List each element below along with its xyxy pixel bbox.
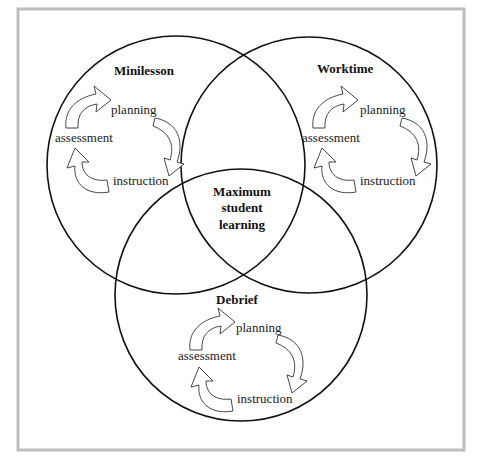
center-label-line-1: Maximum bbox=[213, 184, 271, 199]
center-intersection: Maximum student learning bbox=[213, 184, 271, 232]
cycle-label-planning: planning bbox=[111, 102, 157, 117]
venn-diagram: Minilesson planning assessment instructi… bbox=[0, 0, 478, 465]
cycle-label-assessment: assessment bbox=[55, 130, 113, 145]
cycle-label-instruction: instruction bbox=[360, 173, 416, 188]
set-title-minilesson: Minilesson bbox=[114, 63, 175, 78]
center-label-line-2: student bbox=[221, 200, 263, 215]
cycle-label-instruction: instruction bbox=[237, 391, 293, 406]
cycle-label-assessment: assessment bbox=[302, 130, 360, 145]
set-title-worktime: Worktime bbox=[317, 61, 374, 76]
cycle-label-assessment: assessment bbox=[178, 348, 236, 363]
cycle-label-planning: planning bbox=[360, 102, 406, 117]
set-title-debrief: Debrief bbox=[216, 292, 259, 307]
cycle-label-planning: planning bbox=[236, 320, 282, 335]
center-label-line-3: learning bbox=[219, 217, 266, 232]
cycle-label-instruction: instruction bbox=[113, 173, 169, 188]
